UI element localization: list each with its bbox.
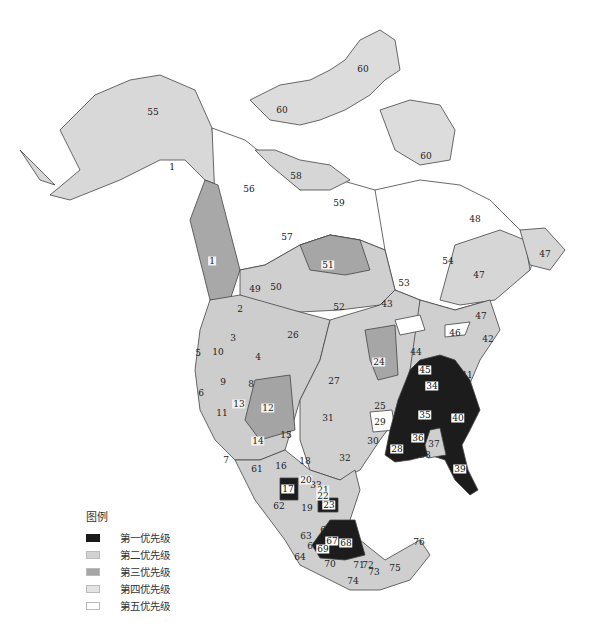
region-arctic-islands [250, 30, 400, 125]
region-label: 47 [539, 250, 550, 259]
region-label: 51 [321, 261, 334, 270]
legend-label: 第二优先级 [120, 547, 170, 562]
region-label: 42 [482, 335, 493, 344]
region-label: 63 [300, 532, 311, 541]
region-label: 23 [322, 501, 335, 510]
region-label: 4 [255, 353, 261, 362]
region-label: 64 [294, 553, 305, 562]
legend-label: 第三优先级 [120, 564, 170, 579]
region-label: 20 [299, 476, 312, 485]
region-label: 10 [212, 348, 223, 357]
region-label: 60 [357, 65, 368, 74]
region-label: 47 [475, 312, 486, 321]
region-label: 59 [333, 199, 344, 208]
region-label: 41 [461, 371, 472, 380]
region-label: 27 [328, 377, 339, 386]
legend-item-priority-3: 第三优先级 [86, 563, 170, 580]
legend-label: 第四优先级 [120, 581, 170, 596]
region-label: 28 [390, 445, 403, 454]
region-label: 17 [281, 485, 294, 494]
region-label: 24 [372, 358, 385, 367]
region-label: 16 [275, 462, 286, 471]
region-label: 75 [389, 564, 400, 573]
legend-label: 第一优先级 [120, 530, 170, 545]
region-label: 48 [469, 215, 480, 224]
region-label: 11 [216, 409, 227, 418]
region-label: 1 [169, 163, 175, 172]
region-label: 14 [251, 437, 264, 446]
region-label: 66 [320, 526, 331, 535]
legend-title: 图例 [86, 508, 170, 524]
legend-item-priority-4: 第四优先级 [86, 580, 170, 597]
region-label: 34 [425, 382, 438, 391]
region-label: 68 [339, 539, 352, 548]
region-label: 47 [473, 271, 484, 280]
region-label: 74 [347, 577, 358, 586]
region-label: 76 [413, 538, 424, 547]
legend-swatch-icon [86, 551, 100, 559]
region-label: 7 [223, 456, 229, 465]
region-label: 40 [451, 414, 464, 423]
region-label: 43 [381, 300, 392, 309]
region-label: 29 [374, 418, 385, 427]
region-label: 60 [276, 106, 287, 115]
region-label: 3 [230, 334, 236, 343]
legend-swatch-icon [86, 585, 100, 593]
region-label: 62 [273, 502, 284, 511]
region-label: 31 [322, 414, 333, 423]
region-label: 46 [449, 329, 460, 338]
region-label: 25 [374, 402, 385, 411]
region-label: 61 [251, 465, 262, 474]
region-label: 12 [261, 404, 274, 413]
region-label: 49 [249, 285, 260, 294]
region-label: 39 [453, 465, 466, 474]
region-label: 5 [195, 349, 201, 358]
region-label: 18 [299, 457, 310, 466]
legend-item-priority-5: 第五优先级 [86, 597, 170, 614]
legend-swatch-icon [86, 568, 100, 576]
region-label: 69 [316, 545, 329, 554]
region-label: 38 [419, 451, 430, 460]
region-label: 2 [237, 305, 243, 314]
region-label: 32 [339, 454, 350, 463]
legend-swatch-icon [86, 534, 100, 542]
region-label: 35 [418, 411, 431, 420]
region-label: 52 [333, 303, 344, 312]
region-label: 50 [270, 283, 281, 292]
legend-label: 第五优先级 [120, 598, 170, 613]
region-label: 58 [290, 172, 301, 181]
region-label: 30 [367, 437, 378, 446]
region-label: 73 [368, 568, 379, 577]
region-label: 15 [280, 431, 291, 440]
region-label: 1 [208, 257, 216, 266]
region-label: 54 [442, 257, 453, 266]
region-label: 36 [411, 434, 424, 443]
region-label: 6 [198, 389, 204, 398]
legend-item-priority-2: 第二优先级 [86, 546, 170, 563]
region-label: 8 [248, 380, 254, 389]
legend-swatch-icon [86, 602, 100, 610]
region-label: 55 [147, 108, 158, 117]
region-label: 44 [410, 348, 421, 357]
region-label: 9 [220, 378, 226, 387]
region-label: 56 [243, 185, 254, 194]
region-label: 70 [324, 560, 335, 569]
region-label: 13 [232, 400, 245, 409]
region-alaska [50, 75, 218, 200]
legend: 图例 第一优先级 第二优先级 第三优先级 第四优先级 第五优先级 [86, 508, 170, 614]
region-label: 60 [420, 152, 431, 161]
region-label: 26 [287, 331, 298, 340]
region-label: 37 [428, 440, 439, 449]
region-label: 53 [398, 279, 409, 288]
region-label: 45 [418, 366, 431, 375]
region-label: 19 [301, 504, 312, 513]
region-label: 57 [281, 233, 292, 242]
legend-item-priority-1: 第一优先级 [86, 529, 170, 546]
